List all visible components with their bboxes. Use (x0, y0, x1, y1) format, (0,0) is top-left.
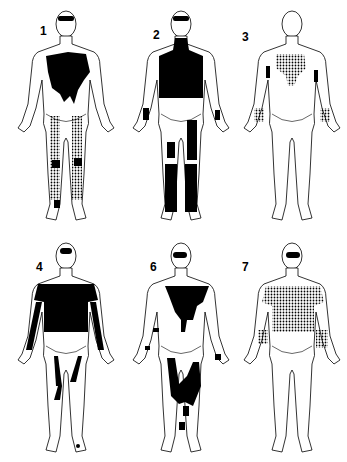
body-outline-icon (234, 236, 347, 462)
body-outline-icon (234, 4, 347, 235)
figure-label: 4 (36, 260, 43, 274)
body-outline-icon (123, 236, 239, 462)
body-figure-4: 4 (8, 236, 124, 462)
body-figure-6: 6 (123, 236, 239, 462)
body-figure-7: 7 (234, 236, 347, 462)
body-outline-icon (8, 236, 124, 462)
body-outline-icon (123, 4, 239, 235)
figure-label: 2 (153, 28, 160, 42)
body-figure-3: 3 (234, 4, 347, 235)
body-figure-1: 1 (8, 4, 124, 235)
body-outline-icon (8, 4, 124, 235)
figure-label: 3 (242, 30, 249, 44)
figure-label: 6 (150, 260, 157, 274)
figure-label: 1 (40, 24, 47, 38)
figure-label: 7 (242, 260, 249, 274)
body-figure-2: 2 (123, 4, 239, 235)
